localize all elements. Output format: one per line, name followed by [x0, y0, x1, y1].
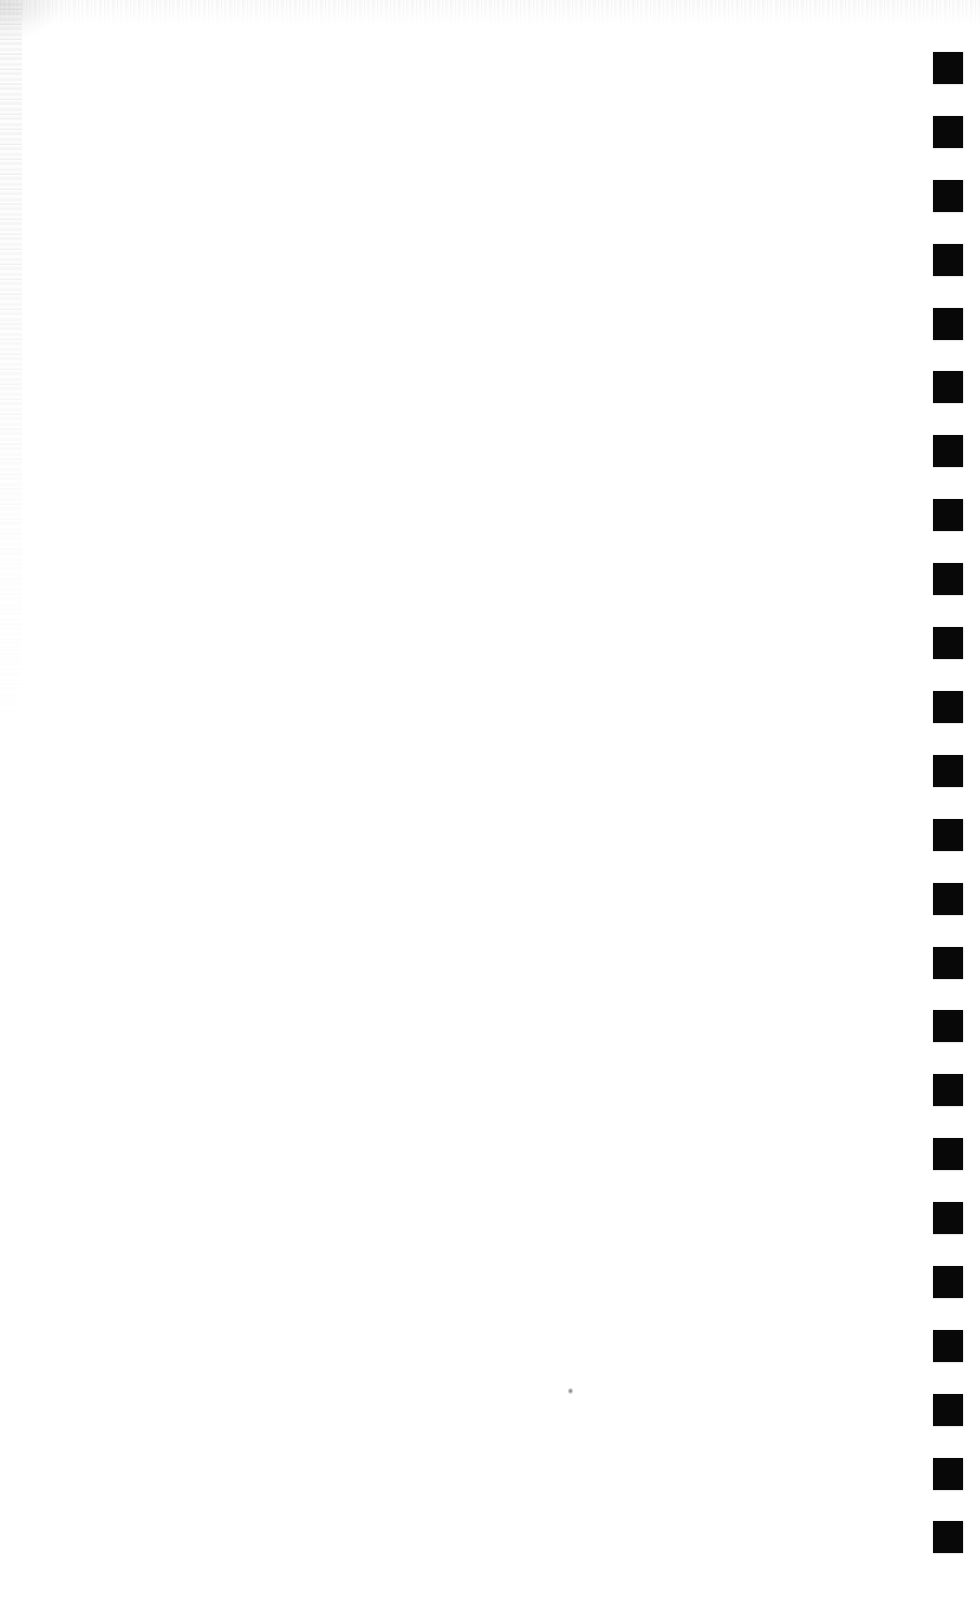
registration-mark — [933, 883, 963, 915]
registration-mark — [933, 52, 963, 84]
registration-mark — [933, 116, 963, 148]
registration-mark — [933, 627, 963, 659]
registration-mark — [933, 499, 963, 531]
registration-mark — [933, 819, 963, 851]
registration-mark — [933, 563, 963, 595]
registration-mark — [933, 1394, 963, 1426]
registration-mark — [933, 691, 963, 723]
registration-mark — [933, 1074, 963, 1106]
registration-mark — [933, 1266, 963, 1298]
registration-mark — [933, 1458, 963, 1490]
scanned-page — [0, 0, 980, 1603]
registration-mark-strip — [900, 0, 980, 1603]
registration-mark — [933, 308, 963, 340]
registration-mark — [933, 371, 963, 403]
page-body-blank — [0, 0, 880, 1603]
registration-mark — [933, 244, 963, 276]
registration-mark — [933, 1010, 963, 1042]
registration-mark — [933, 1202, 963, 1234]
registration-mark — [933, 1521, 963, 1553]
registration-mark — [933, 180, 963, 212]
registration-mark — [933, 1330, 963, 1362]
registration-mark — [933, 947, 963, 979]
registration-mark — [933, 1138, 963, 1170]
registration-mark — [933, 755, 963, 787]
registration-mark — [933, 435, 963, 467]
